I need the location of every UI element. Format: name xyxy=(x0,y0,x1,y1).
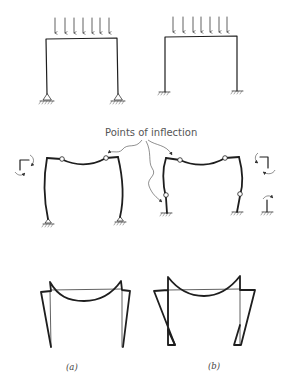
moment-diagram-a xyxy=(41,281,130,347)
caption-b: (b) xyxy=(208,361,220,371)
pin-support-left-a xyxy=(39,94,54,104)
caption-a: (a) xyxy=(66,362,78,372)
base-moment-symbol xyxy=(261,196,273,215)
frame-b-deflected xyxy=(160,156,243,216)
inflection-point xyxy=(223,156,228,161)
inflection-point xyxy=(164,193,169,198)
moment-diagram-b xyxy=(154,276,255,345)
fixed-support-left-b2 xyxy=(160,213,172,216)
frame-a-members xyxy=(46,38,118,94)
inflection-point xyxy=(178,158,183,163)
pin-support-left-a2 xyxy=(42,219,54,227)
inflection-point xyxy=(60,157,65,162)
inflection-point xyxy=(238,192,243,197)
distributed-load-arrows-b xyxy=(173,17,227,32)
frame-a-deflected xyxy=(42,156,126,227)
frame-b-loaded xyxy=(158,17,243,95)
points-of-inflection-label: Points of inflection xyxy=(105,127,197,138)
portal-frame-diagram: Points of inflection xyxy=(0,0,287,386)
pin-support-right-a xyxy=(110,94,125,104)
inflection-point xyxy=(104,156,109,161)
moment-symbol-left xyxy=(15,155,34,175)
frame-b-members xyxy=(165,36,237,92)
pin-support-right-a2 xyxy=(114,217,126,225)
inflection-leader-arrows xyxy=(108,140,172,202)
frame-a-loaded xyxy=(39,18,125,104)
distributed-load-arrows-a xyxy=(55,18,109,33)
moment-symbol-right xyxy=(255,153,275,174)
fixed-support-left-b xyxy=(158,92,170,95)
